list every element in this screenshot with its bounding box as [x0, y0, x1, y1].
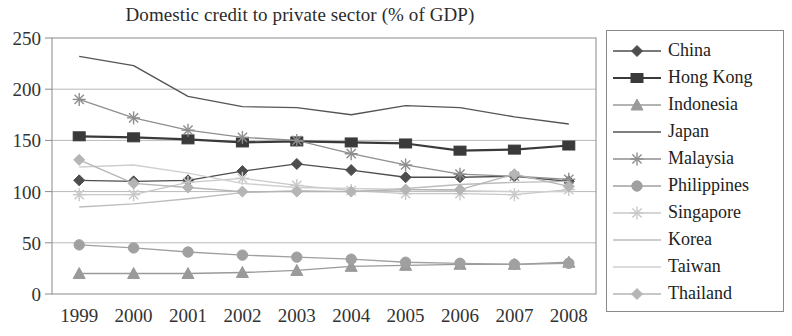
series-taiwan — [79, 165, 569, 192]
legend-item-label: Indonesia — [668, 94, 738, 115]
x-axis-tick-label: 2004 — [332, 305, 371, 326]
legend-item-label: Japan — [668, 121, 709, 142]
legend-marker-square-icon — [611, 68, 663, 88]
legend-item-label: Taiwan — [668, 256, 721, 277]
legend-item-label: Malaysia — [668, 148, 734, 169]
x-axis-tick-label: 2006 — [441, 305, 479, 326]
legend-item-philippines[interactable]: Philippines — [611, 172, 783, 199]
chart-legend: ChinaHong KongIndonesiaJapanMalaysiaPhil… — [606, 30, 784, 312]
x-axis-tick-label: 2002 — [223, 305, 261, 326]
legend-marker-triangle-icon — [611, 95, 663, 115]
legend-marker-none-icon — [611, 230, 663, 250]
legend-item-label: Thailand — [668, 283, 732, 304]
legend-item-label: Hong Kong — [668, 67, 753, 88]
series-indonesia — [73, 256, 575, 278]
x-axis-tick-label: 2007 — [495, 305, 533, 326]
y-axis-tick-label: 200 — [13, 79, 42, 100]
series-layer — [73, 56, 576, 278]
line-chart: 050100150200250 199920002001200220032004… — [0, 22, 600, 336]
y-axis-tick-label: 50 — [22, 233, 41, 254]
series-philippines — [74, 240, 574, 270]
y-axis-ticks: 050100150200250 — [13, 28, 42, 305]
legend-item-china[interactable]: China — [611, 37, 783, 64]
legend-item-japan[interactable]: Japan — [611, 118, 783, 145]
legend-marker-star-icon — [611, 149, 663, 169]
legend-item-indonesia[interactable]: Indonesia — [611, 91, 783, 118]
legend-item-label: China — [668, 40, 711, 61]
legend-item-label: Korea — [668, 229, 712, 250]
legend-item-hong-kong[interactable]: Hong Kong — [611, 64, 783, 91]
legend-item-thailand[interactable]: Thailand — [611, 280, 783, 307]
x-axis-tick-label: 2008 — [550, 305, 588, 326]
x-axis-tick-label: 2003 — [278, 305, 316, 326]
legend-item-label: Singapore — [668, 202, 741, 223]
x-axis-tick-label: 2005 — [387, 305, 425, 326]
legend-item-korea[interactable]: Korea — [611, 226, 783, 253]
legend-item-malaysia[interactable]: Malaysia — [611, 145, 783, 172]
legend-marker-none-icon — [611, 122, 663, 142]
y-axis-tick-label: 0 — [32, 284, 42, 305]
legend-item-label: Philippines — [668, 175, 749, 196]
legend-item-singapore[interactable]: Singapore — [611, 199, 783, 226]
x-axis-tick-label: 2000 — [115, 305, 153, 326]
x-axis-ticks: 1999200020012002200320042005200620072008 — [60, 305, 588, 326]
legend-item-taiwan[interactable]: Taiwan — [611, 253, 783, 280]
legend-marker-star-faint-icon — [611, 203, 663, 223]
series-malaysia — [73, 93, 576, 186]
x-axis-tick-label: 2001 — [169, 305, 207, 326]
chart-page: Domestic credit to private sector (% of … — [0, 0, 792, 336]
x-axis-tick-label: 1999 — [60, 305, 98, 326]
plot-border — [52, 38, 596, 294]
plot-area: 050100150200250 199920002001200220032004… — [0, 22, 600, 336]
y-axis-tick-label: 100 — [13, 182, 42, 203]
y-axis-tick-label: 150 — [13, 130, 42, 151]
legend-marker-diamond-light-icon — [611, 284, 663, 304]
series-japan — [79, 56, 569, 124]
series-hong-kong — [73, 132, 575, 155]
y-axis-tick-label: 250 — [13, 28, 42, 49]
legend-marker-circle-icon — [611, 176, 663, 196]
legend-marker-none-icon — [611, 257, 663, 277]
legend-marker-diamond-icon — [611, 41, 663, 61]
